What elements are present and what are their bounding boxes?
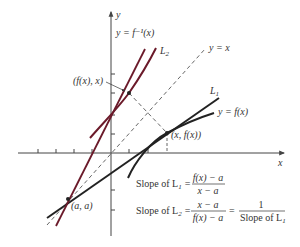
svg-text:Slope of L1=: Slope of L1=	[136, 178, 191, 191]
equation-slope-L2: Slope of L2= x − a f(x) − a = 1 Slope of…	[136, 199, 286, 225]
svg-text:L2: L2	[159, 45, 170, 58]
label-x-fx: (x, f(x))	[171, 129, 202, 141]
svg-text:1: 1	[259, 199, 264, 210]
axes: x y	[18, 9, 284, 236]
label-f-inverse: y = f⁻¹(x)	[115, 27, 155, 39]
svg-text:x − a: x − a	[196, 185, 218, 196]
svg-text:=: =	[229, 205, 235, 216]
svg-text:L1: L1	[209, 85, 219, 98]
label-fx-x-pointer	[106, 82, 125, 91]
y-axis-ticks	[111, 74, 115, 210]
svg-text:Slope of L1: Slope of L1	[240, 212, 286, 225]
point-fx-x	[127, 91, 131, 95]
curve-f	[128, 113, 214, 178]
inverse-function-diagram: x y y = x (a, a) (x, f(x)) (f(x), x) y =…	[0, 0, 300, 247]
label-f: y = f(x)	[217, 106, 249, 118]
svg-text:Slope of L2=: Slope of L2=	[136, 205, 191, 218]
label-aa: (a, a)	[71, 200, 93, 212]
label-L2: L2	[159, 45, 170, 58]
point-x-fx	[165, 131, 169, 135]
y-axis-label: y	[115, 9, 121, 20]
svg-text:f(x) − a: f(x) − a	[193, 212, 224, 224]
label-fx-x: (f(x), x)	[73, 75, 104, 87]
x-axis-label: x	[277, 157, 283, 168]
label-L1: L1	[209, 85, 219, 98]
svg-text:f(x) − a: f(x) − a	[193, 172, 224, 184]
identity-label: y = x	[208, 42, 230, 53]
equation-slope-L1: Slope of L1= f(x) − a x − a	[136, 172, 225, 196]
svg-text:x − a: x − a	[196, 199, 218, 210]
point-aa	[66, 197, 70, 201]
